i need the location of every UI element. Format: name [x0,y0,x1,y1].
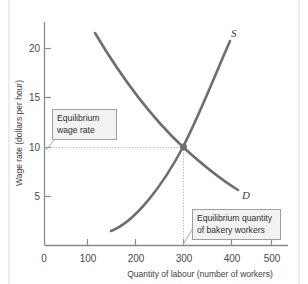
y-tick-label-5: 5 [34,191,40,202]
y-tick-label-20: 20 [29,43,41,54]
wage-callout-line1: Equilibrium [57,113,100,123]
quantity-callout-line1: Equilibrium quantity [197,213,273,223]
y-tick-label-15: 15 [29,92,41,103]
x-tick-label-200: 200 [128,253,145,264]
supply-curve-label: S [231,27,237,39]
x-tick-label-0: 0 [41,253,47,264]
x-axis-title: Quantity of labour (number of workers) [127,269,273,279]
wage-callout-leader-line [46,139,55,150]
wage-callout-line2: wage rate [56,125,95,135]
demand-curve-label: D [241,189,250,201]
x-tick-label-300: 300 [176,253,193,264]
supply-demand-figure: 20 15 10 5 0 100 200 300 400 500 Wage ra… [0,0,308,284]
x-tick-label-100: 100 [80,253,97,264]
y-tick-label-10: 10 [29,142,41,153]
x-tick-label-400: 400 [224,253,241,264]
quantity-callout-leader-line [184,228,193,243]
equilibrium-point-marker [180,144,187,151]
x-tick-label-500: 500 [264,253,281,264]
y-axis-title: Wage rate (dollars per hour) [14,80,24,186]
quantity-callout-line2: of bakery workers [197,225,265,235]
